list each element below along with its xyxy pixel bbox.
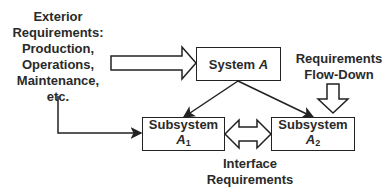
interface-requirements-label: Interface Requirements: [205, 156, 295, 188]
exterior-line: Requirements:: [6, 25, 110, 41]
system-a-box: System A: [196, 47, 281, 81]
exterior-input-arrow: [111, 47, 196, 79]
exterior-line: Exterior: [6, 9, 110, 25]
exterior-line: Production,: [6, 41, 110, 57]
subsystem-a2-sub: 2: [315, 138, 320, 148]
subsystem-a2-label: Subsystem: [278, 117, 347, 132]
exterior-line: Operations,: [6, 57, 110, 73]
interface-double-arrow: [225, 120, 271, 148]
exterior-requirements-label: Exterior Requirements: Production, Opera…: [6, 9, 110, 105]
subsystem-a1-var: A: [176, 132, 185, 147]
flowdown-line: Flow-Down: [290, 67, 388, 83]
subsystem-a1-id: A1: [176, 132, 190, 151]
system-a-label: System A: [209, 57, 268, 72]
subsystem-a2-id: A2: [306, 132, 320, 151]
system-to-a2-arrow: [238, 81, 313, 117]
interface-line: Interface: [205, 156, 295, 172]
system-var: A: [259, 57, 268, 72]
system-to-a1-arrow: [184, 81, 238, 117]
subsystem-a1-sub: 1: [186, 138, 191, 148]
interface-line: Requirements: [205, 172, 295, 188]
subsystem-a2-box: Subsystem A2: [271, 117, 355, 151]
flowdown-arrow: [318, 84, 348, 113]
exterior-line: Maintenance,: [6, 73, 110, 89]
subsystem-a2-var: A: [306, 132, 315, 147]
system-label-text: System: [209, 57, 255, 72]
exterior-line: etc.: [6, 89, 110, 105]
flowdown-line: Requirements: [290, 51, 388, 67]
flowdown-label: Requirements Flow-Down: [290, 51, 388, 83]
subsystem-a1-label: Subsystem: [149, 117, 218, 132]
subsystem-a1-box: Subsystem A1: [142, 117, 225, 151]
